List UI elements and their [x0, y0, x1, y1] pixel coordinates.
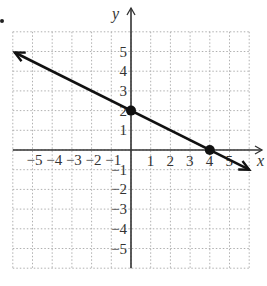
- problem-marker-dot: [0, 19, 4, 23]
- y-axis-label: y: [110, 5, 120, 23]
- y-tick-label: −2: [111, 181, 127, 197]
- y-tick-label: 1: [120, 122, 128, 138]
- y-tick-label: −3: [111, 201, 127, 217]
- x-tick-label: −2: [86, 152, 102, 168]
- y-intercept-point: [126, 106, 136, 116]
- y-tick-label: −1: [111, 162, 127, 178]
- x-tick-label: 4: [206, 153, 214, 169]
- x-tick-label: −3: [66, 152, 82, 168]
- y-tick-label: 4: [120, 63, 128, 79]
- x-tick-label: 1: [147, 153, 155, 169]
- x-tick-label: −5: [27, 152, 43, 168]
- y-tick-label: 5: [120, 44, 128, 60]
- axes: [13, 8, 262, 268]
- x-tick-label: −4: [46, 152, 62, 168]
- y-tick-label: 3: [120, 83, 128, 99]
- y-tick-label: −4: [111, 221, 127, 237]
- coordinate-graph: −5−4−3−2−11234554321−1−2−3−4−5 x y: [0, 0, 267, 286]
- x-tick-label: 2: [166, 153, 174, 169]
- x-intercept-point: [205, 145, 215, 155]
- x-axis-label: x: [256, 152, 264, 169]
- x-tick-label: 3: [186, 153, 194, 169]
- y-tick-label: −5: [111, 241, 127, 257]
